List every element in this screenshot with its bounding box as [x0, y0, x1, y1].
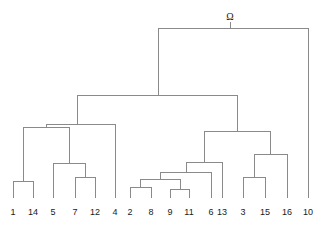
leaf-label-4: 4	[112, 207, 117, 217]
leaf-label-6: 6	[208, 207, 213, 217]
root-group: Ω	[226, 11, 233, 28]
merge-node	[140, 172, 180, 179]
merge-node	[160, 162, 211, 172]
merge-node	[243, 154, 265, 177]
merge-node	[75, 163, 95, 177]
merge-links-group	[13, 22, 308, 189]
merge-node	[170, 179, 189, 189]
merge-node	[130, 179, 151, 187]
merge-node	[186, 131, 222, 162]
leaf-label-10: 10	[303, 207, 313, 217]
leaf-labels-group: 11457124289116133151610	[10, 207, 313, 217]
leaf-label-5: 5	[50, 207, 55, 217]
leaf-label-8: 8	[148, 207, 153, 217]
leaf-label-15: 15	[260, 207, 270, 217]
merge-node	[13, 127, 33, 181]
leaf-label-3: 3	[240, 207, 245, 217]
merge-node	[204, 95, 270, 131]
merge-node	[254, 131, 287, 154]
merge-node	[77, 28, 237, 95]
merge-node	[158, 22, 308, 28]
merge-node	[46, 95, 115, 124]
leaf-label-7: 7	[72, 207, 77, 217]
leaf-label-9: 9	[167, 207, 172, 217]
leaf-label-12: 12	[90, 207, 100, 217]
dendrogram-canvas: 11457124289116133151610 Ω	[0, 0, 324, 237]
dendrogram-figure: 11457124289116133151610 Ω	[0, 0, 324, 237]
leaf-label-14: 14	[28, 207, 38, 217]
leaf-label-1: 1	[10, 207, 15, 217]
root-label: Ω	[226, 11, 233, 22]
leaf-label-16: 16	[282, 207, 292, 217]
merge-node	[53, 127, 85, 163]
leaf-label-13: 13	[217, 207, 227, 217]
leaf-label-11: 11	[184, 207, 193, 217]
leaf-label-2: 2	[127, 207, 132, 217]
